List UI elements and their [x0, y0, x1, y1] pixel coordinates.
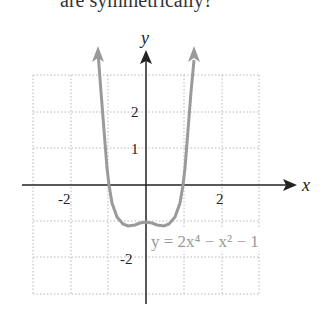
y-tick-1: 1 — [131, 141, 139, 157]
function-graph: x y -2 2 2 1 -2 y = 2x⁴ − x² − 1 — [0, 0, 322, 313]
curve-right-arrow-icon — [188, 46, 200, 62]
equation-label: y = 2x⁴ − x² − 1 — [151, 232, 259, 251]
y-tick-neg2: -2 — [120, 251, 133, 267]
y-tick-2: 2 — [131, 104, 139, 120]
x-tick-2: 2 — [216, 191, 224, 207]
axes — [22, 58, 290, 304]
x-axis-label: x — [301, 175, 310, 195]
y-axis-label: y — [139, 28, 149, 48]
x-tick-neg2: -2 — [58, 191, 71, 207]
